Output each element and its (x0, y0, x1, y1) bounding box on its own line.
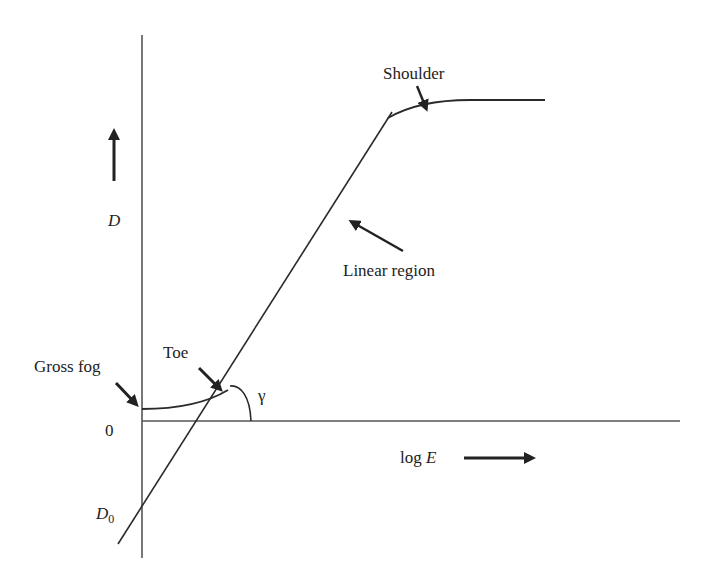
linear-region-line (118, 112, 392, 544)
x-axis-label: log E (400, 448, 437, 467)
characteristic-curve-diagram: D 0 Gross fog Toe γ Linear region Should… (0, 0, 710, 588)
linear-region-pointer-arrow (352, 222, 403, 251)
gross-fog-label: Gross fog (34, 357, 101, 376)
linear-region-label: Linear region (343, 261, 436, 280)
y-axis-label: D (107, 211, 121, 230)
d0-label-subscript: 0 (108, 512, 114, 526)
gross-fog-toe-curve (142, 390, 228, 409)
origin-label: 0 (105, 421, 114, 440)
shoulder-curve (388, 100, 545, 118)
gross-fog-pointer-arrow (116, 383, 136, 404)
x-axis-label-var: E (425, 448, 437, 467)
d0-label: D0 (95, 504, 114, 526)
gamma-label: γ (257, 386, 266, 405)
gamma-angle-arc (230, 386, 251, 421)
x-axis-label-prefix: log (400, 448, 426, 467)
shoulder-label: Shoulder (383, 64, 445, 83)
toe-label: Toe (163, 343, 188, 362)
toe-pointer-arrow (199, 368, 220, 389)
d0-label-main: D (95, 504, 109, 523)
